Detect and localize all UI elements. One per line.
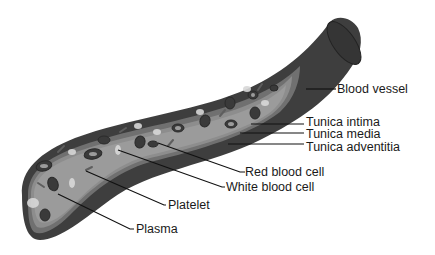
label-plasma: Plasma bbox=[136, 223, 178, 236]
label-platelet: Platelet bbox=[168, 199, 210, 212]
blood-vessel-diagram: Blood vessel Tunica intima Tunica media … bbox=[0, 0, 435, 255]
label-tunica-media: Tunica media bbox=[306, 128, 381, 141]
label-blood-vessel: Blood vessel bbox=[337, 83, 408, 96]
label-white-blood-cell: White blood cell bbox=[226, 181, 314, 194]
label-tunica-adventitia: Tunica adventitia bbox=[306, 141, 400, 154]
label-red-blood-cell: Red blood cell bbox=[245, 166, 324, 179]
